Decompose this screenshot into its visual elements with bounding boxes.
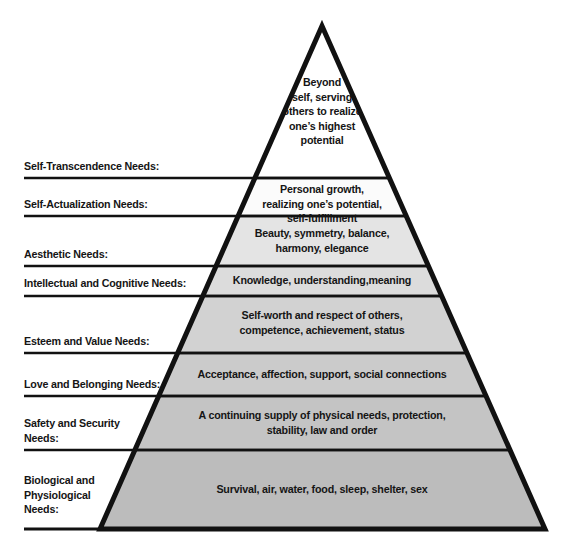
tier-content-esteem-value: Self-worth and respect of others, compet… [192,308,452,337]
tier-label-intellectual-cognitive: Intellectual and Cognitive Needs: [24,276,186,291]
tier-content-aesthetic: Beauty, symmetry, balance, harmony, eleg… [210,226,433,255]
tier-content-biological-physiological: Survival, air, water, food, sleep, shelt… [155,482,490,497]
tier-content-love-belonging: Acceptance, affection, support, social c… [173,367,471,382]
tier-label-love-belonging: Love and Belonging Needs: [24,377,160,392]
tier-content-self-actualization: Personal growth, realizing one’s potenti… [220,182,425,226]
tier-label-self-transcendence: Self-Transcendence Needs: [24,159,159,174]
tier-label-biological-physiological: Biological and Physiological Needs: [24,473,94,517]
tier-content-safety-security: A continuing supply of physical needs, p… [173,408,471,437]
tier-label-self-actualization: Self-Actualization Needs: [24,197,148,212]
maslow-pyramid-diagram: Self-Transcendence Needs: Self-Actualiza… [0,0,562,559]
tier-label-aesthetic: Aesthetic Needs: [24,247,108,262]
tier-content-self-transcendence: Beyond self, serving others to realize o… [238,75,405,148]
tier-content-intellectual-cognitive: Knowledge, understanding,meaning [192,273,452,288]
tier-label-safety-security: Safety and Security Needs: [24,416,120,445]
tier-label-esteem-value: Esteem and Value Needs: [24,334,149,349]
